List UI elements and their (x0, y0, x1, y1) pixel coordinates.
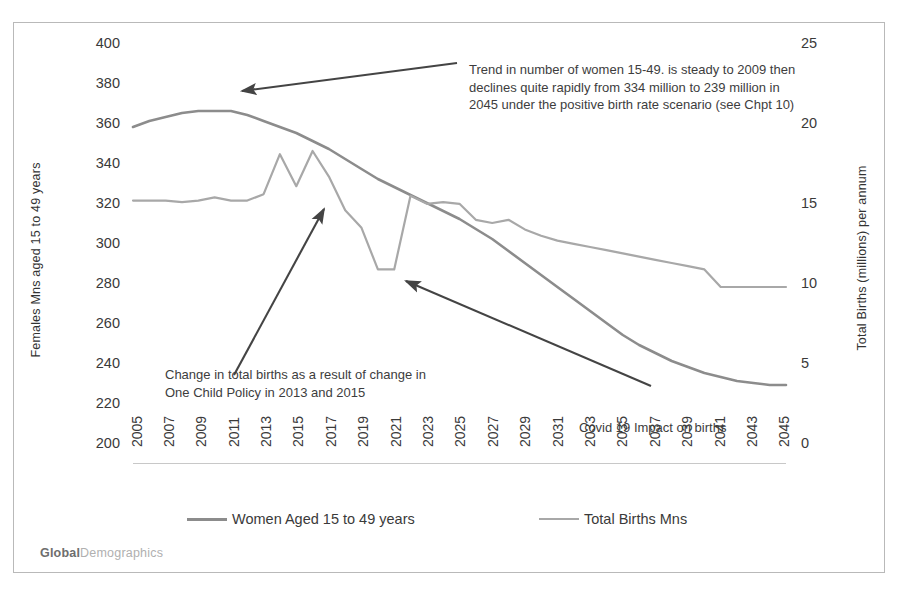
y-left-tick: 400 (74, 36, 120, 50)
legend-label-women: Women Aged 15 to 49 years (232, 511, 415, 527)
y-right-tick: 0 (801, 436, 841, 450)
y-left-tick: 320 (74, 196, 120, 210)
y-right-tick: 5 (801, 356, 841, 370)
y-left-tick: 300 (74, 236, 120, 250)
y-axis-left-title: Females Mns aged 15 to 49 years (29, 120, 43, 400)
y-axis-right-title: Total Births (millions) per annum (855, 113, 869, 403)
annotation-women-trend: Trend in number of women 15-49. is stead… (469, 61, 799, 114)
y-left-tick: 220 (74, 396, 120, 410)
legend-label-births: Total Births Mns (584, 511, 687, 527)
annotation-one-child-policy: Change in total births as a result of ch… (165, 366, 435, 401)
chart-container: Females Mns aged 15 to 49 years Total Bi… (13, 22, 885, 573)
y-right-tick: 10 (801, 276, 841, 290)
legend-swatch-births-icon (539, 518, 579, 520)
y-right-tick: 25 (801, 36, 841, 50)
brand-watermark: GlobalDemographics (40, 546, 163, 560)
x-axis-line (133, 463, 786, 464)
y-left-tick: 240 (74, 356, 120, 370)
y-left-tick: 340 (74, 156, 120, 170)
y-left-tick: 360 (74, 116, 120, 130)
y-right-tick: 20 (801, 116, 841, 130)
plot-area (133, 63, 786, 463)
brand-light: Demographics (80, 546, 163, 560)
legend-item-births[interactable]: Total Births Mns (539, 511, 687, 527)
legend-swatch-women-icon (187, 518, 227, 521)
y-left-tick: 200 (74, 436, 120, 450)
series-svg (133, 63, 786, 463)
y-left-tick: 280 (74, 276, 120, 290)
y-left-tick: 260 (74, 316, 120, 330)
annotation-covid-impact: Covid 19 Impact on births (579, 419, 779, 437)
y-right-tick: 15 (801, 196, 841, 210)
brand-bold: Global (40, 546, 80, 560)
y-left-tick: 380 (74, 76, 120, 90)
legend-item-women[interactable]: Women Aged 15 to 49 years (187, 511, 415, 527)
series-line-women (133, 111, 786, 385)
chart-legend: Women Aged 15 to 49 years Total Births M… (14, 511, 886, 537)
